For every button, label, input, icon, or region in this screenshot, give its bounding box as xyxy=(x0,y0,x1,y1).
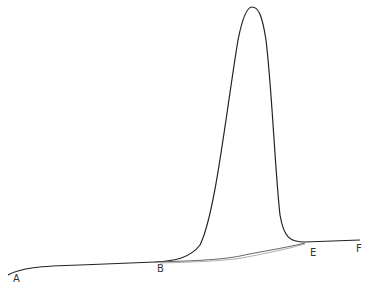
label-a: A xyxy=(13,274,20,284)
signal-curve xyxy=(8,7,360,275)
baseline-line-secondary xyxy=(160,244,305,263)
label-f: F xyxy=(356,244,362,254)
label-e: E xyxy=(310,248,316,258)
peak-diagram xyxy=(0,0,367,286)
label-b: B xyxy=(157,264,164,274)
